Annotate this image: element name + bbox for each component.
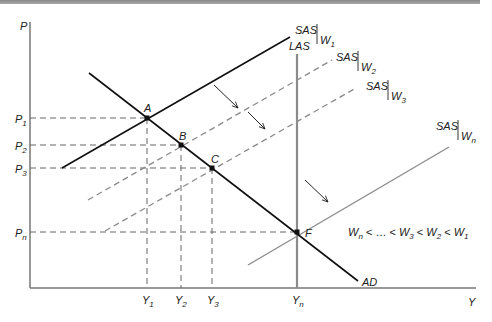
tick-y3: Y3 bbox=[207, 294, 219, 309]
shift-arrow-3-icon bbox=[305, 180, 328, 202]
shift-arrow-2-icon bbox=[248, 112, 265, 129]
las-label: LAS bbox=[289, 40, 310, 52]
point-b-marker bbox=[179, 143, 184, 148]
point-c-marker bbox=[210, 166, 215, 171]
svg-text:SAS: SAS bbox=[366, 80, 389, 92]
svg-text:SAS: SAS bbox=[436, 120, 459, 132]
point-f-label: F bbox=[305, 227, 313, 239]
point-f-marker bbox=[295, 230, 300, 235]
y-axis-label: P bbox=[20, 20, 28, 32]
sas-w1-curve bbox=[62, 37, 290, 168]
sas-w3-label: SAS W3 bbox=[366, 80, 406, 105]
sas-wn-curve bbox=[248, 147, 449, 265]
shift-arrow-1-icon bbox=[214, 85, 238, 108]
svg-text:W2: W2 bbox=[361, 61, 376, 76]
svg-text:Wn: Wn bbox=[461, 130, 476, 145]
tick-p3: P3 bbox=[15, 163, 27, 178]
tick-y1: Y1 bbox=[142, 294, 154, 309]
svg-text:SAS: SAS bbox=[336, 51, 359, 63]
svg-text:W3: W3 bbox=[391, 90, 406, 105]
ad-curve bbox=[89, 73, 358, 281]
svg-text:W1: W1 bbox=[320, 34, 335, 49]
point-b-label: B bbox=[179, 130, 186, 142]
sas-w3-curve bbox=[105, 88, 356, 231]
point-a-label: A bbox=[143, 102, 151, 114]
svg-text:SAS: SAS bbox=[295, 24, 318, 36]
tick-pn: Pn bbox=[15, 227, 27, 242]
tick-p1: P1 bbox=[15, 113, 27, 128]
ad-as-diagram: P Y P1 P2 P3 Pn Y1 Y2 Y3 Yn A B C F AD L… bbox=[0, 0, 492, 322]
point-a-marker bbox=[145, 116, 150, 121]
x-axis-label: Y bbox=[468, 296, 476, 308]
sas-w2-label: SAS W2 bbox=[336, 51, 376, 76]
tick-p2: P2 bbox=[15, 140, 27, 155]
ad-label: AD bbox=[361, 276, 377, 288]
tick-yn: Yn bbox=[292, 294, 304, 309]
sas-w2-curve bbox=[88, 60, 332, 200]
tick-y2: Y2 bbox=[175, 294, 187, 309]
wage-ordering-note: Wn < … < W3 < W2 < W1 bbox=[348, 226, 469, 241]
point-c-label: C bbox=[211, 153, 219, 165]
sas-wn-label: SAS Wn bbox=[436, 120, 476, 145]
